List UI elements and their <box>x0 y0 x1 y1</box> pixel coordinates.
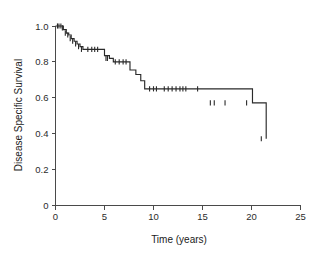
kaplan-meier-chart: 051015202500.20.40.60.81.0 Time (years) … <box>0 0 318 254</box>
x-tick-label-3: 15 <box>197 211 208 222</box>
y-tick-label-0: 0 <box>43 200 48 211</box>
survival-chart-figure: 051015202500.20.40.60.81.0 Time (years) … <box>0 0 318 254</box>
x-tick-label-5: 25 <box>295 211 306 222</box>
y-tick-label-1: 0.2 <box>35 164 48 175</box>
x-tick-label-0: 0 <box>53 211 58 222</box>
x-tick-label-4: 20 <box>246 211 257 222</box>
plot-background <box>0 0 318 254</box>
y-tick-label-5: 1.0 <box>35 21 48 32</box>
y-tick-label-4: 0.8 <box>35 56 48 67</box>
x-axis-title: Time (years) <box>151 234 207 245</box>
y-axis-title: Disease Specific Survival <box>13 59 24 171</box>
x-tick-label-2: 10 <box>148 211 159 222</box>
y-tick-label-3: 0.6 <box>35 92 48 103</box>
x-tick-label-1: 5 <box>102 211 107 222</box>
y-tick-label-2: 0.4 <box>35 128 48 139</box>
